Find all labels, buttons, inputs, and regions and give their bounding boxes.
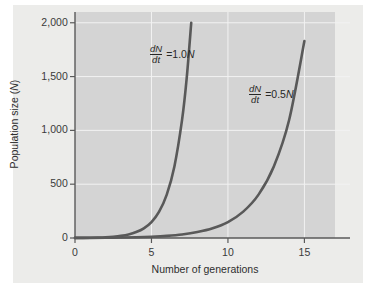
x-tick-label: 15 <box>289 246 319 258</box>
chart-figure: 05001,0001,5002,000 051015 Population si… <box>0 0 373 294</box>
y-tick-label: 2,000 <box>10 16 68 28</box>
plot-area-background <box>75 12 335 238</box>
y-axis-title-text: Population size <box>8 97 20 168</box>
x-tick-label: 0 <box>60 246 90 258</box>
y-axis-ticks <box>70 23 75 238</box>
x-axis-title: Number of generations <box>75 263 335 275</box>
x-tick-label: 5 <box>136 246 166 258</box>
y-axis-title: Population size (N) <box>8 64 20 184</box>
x-tick-label: 10 <box>213 246 243 258</box>
annotation-rate-0-5: dN dt = 0.5N <box>247 84 294 105</box>
derivative-fraction: dN dt <box>247 84 263 105</box>
annotation-rhs: 0.5N <box>271 88 293 100</box>
population-variable: N <box>187 48 195 60</box>
population-variable: N <box>286 88 294 100</box>
rate-value: 0.5 <box>271 88 286 100</box>
derivative-fraction: dN dt <box>148 44 164 65</box>
fraction-numerator: dN <box>148 44 164 54</box>
fraction-denominator: dt <box>150 54 162 65</box>
annotation-rhs: 1.0N <box>172 48 194 60</box>
y-tick-label: 0 <box>10 231 68 243</box>
rate-value: 1.0 <box>172 48 187 60</box>
y-axis-title-var: (N) <box>8 80 20 98</box>
fraction-numerator: dN <box>247 84 263 94</box>
fraction-denominator: dt <box>249 94 261 105</box>
annotation-rate-1: dN dt = 1.0N <box>148 44 195 65</box>
